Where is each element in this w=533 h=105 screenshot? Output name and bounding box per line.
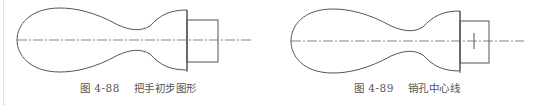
figure-4-89-drawing	[266, 0, 533, 80]
figure-title: 销孔中心线	[408, 82, 461, 94]
figure-4-89-caption: 图 4-89销孔中心线	[354, 80, 460, 95]
figure-title: 把手初步图形	[134, 82, 197, 94]
figure-4-88-caption: 图 4-88把手初步图形	[80, 80, 197, 95]
figure-number: 图 4-89	[354, 82, 394, 94]
shank-rectangle	[187, 20, 218, 62]
figure-4-88-drawing	[0, 0, 266, 80]
figure-number: 图 4-88	[80, 82, 120, 94]
